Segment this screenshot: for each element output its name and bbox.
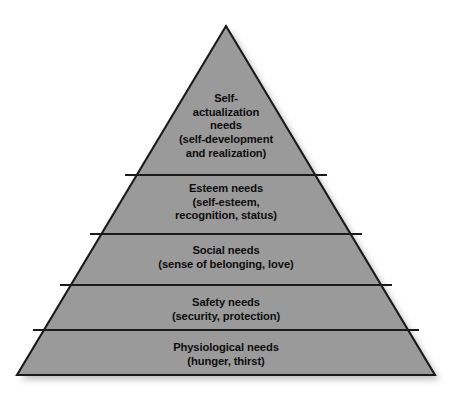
- tier-label-social: Social needs (sense of belonging, love): [0, 244, 452, 272]
- tier-label-esteem: Esteem needs (self-esteem, recognition, …: [0, 182, 452, 223]
- maslow-pyramid-diagram: Self- actualization needs (self-developm…: [0, 0, 465, 404]
- tier-label-safety: Safety needs (security, protection): [0, 296, 452, 324]
- tier-label-physiological: Physiological needs (hunger, thirst): [0, 341, 452, 369]
- tier-label-self-actualization: Self- actualization needs (self-developm…: [0, 92, 452, 160]
